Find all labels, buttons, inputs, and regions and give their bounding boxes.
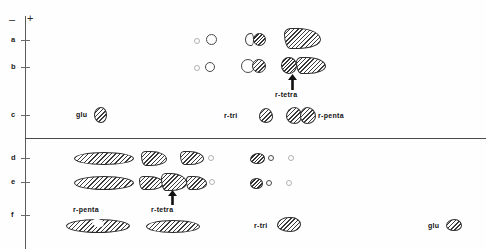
spot-row-b-4	[252, 59, 266, 73]
row-label-b: b	[11, 63, 16, 71]
polarity-positive-label: +	[27, 13, 33, 24]
spot-row-a-1	[194, 38, 200, 44]
panel-divider-line	[25, 138, 486, 139]
spot-row-b-6	[296, 57, 326, 74]
spot-row-b-2	[205, 62, 215, 72]
spot-row-d-2	[141, 151, 167, 166]
spot-row-d-4	[208, 155, 214, 161]
glu-label-upper: glu	[76, 111, 87, 119]
spot-row-f-3	[277, 217, 301, 232]
spot-row-d-6	[268, 155, 274, 161]
r-penta-label-lower: r-penta	[73, 206, 99, 214]
spot-row-b-1	[194, 65, 200, 71]
spot-row-d-7	[288, 155, 294, 161]
row-tick-a	[21, 40, 30, 41]
spot-row-d-5	[250, 153, 265, 164]
r-tri-label-lower: r-tri	[254, 222, 268, 230]
spot-row-f-2	[146, 220, 200, 233]
spot-row-a-4	[253, 33, 266, 46]
spot-row-d-1	[74, 152, 134, 165]
spot-row-e-4	[186, 176, 207, 190]
spot-row-e-7	[266, 180, 272, 186]
spot-row-b-5	[281, 57, 297, 74]
spot-row-e-3	[161, 173, 187, 191]
r-tri-label-upper: r-tri	[224, 112, 238, 120]
glu-label-lower: glu	[428, 222, 439, 230]
spot-row-c-rpenta-2	[300, 107, 316, 124]
spot-row-a-2	[206, 34, 217, 45]
spot-row-f-4	[446, 219, 462, 231]
spot-row-c-glu	[94, 107, 107, 123]
row-tick-d	[21, 158, 30, 159]
r-penta-label-upper: r-penta	[318, 112, 344, 120]
r-tetra-label-lower: r-tetra	[151, 206, 173, 214]
row-tick-e	[21, 182, 30, 183]
r-tetra-label-upper: r-tetra	[275, 91, 297, 99]
row-tick-f	[21, 215, 30, 216]
chromatogram-figure: – + a b c d e f r-tetra glu r-tri r-pent…	[0, 0, 486, 249]
row-label-d: d	[11, 154, 16, 162]
polarity-negative-label: –	[9, 14, 15, 25]
spot-row-e-5	[209, 179, 215, 185]
spot-row-d-3	[180, 151, 204, 165]
r-tetra-arrow-lower	[167, 190, 178, 205]
spot-row-e-6	[250, 178, 263, 189]
row-tick-b	[21, 67, 30, 68]
spot-row-a-5	[284, 28, 321, 49]
spot-row-e-8	[286, 180, 292, 186]
row-label-e: e	[11, 178, 15, 186]
row-label-c: c	[11, 111, 15, 119]
r-tetra-arrow-upper	[287, 74, 298, 90]
spot-row-e-1	[74, 176, 134, 190]
row-label-f: f	[11, 211, 14, 219]
row-tick-c	[21, 115, 30, 116]
spot-row-c-rtri	[259, 108, 273, 123]
row-label-a: a	[11, 36, 15, 44]
